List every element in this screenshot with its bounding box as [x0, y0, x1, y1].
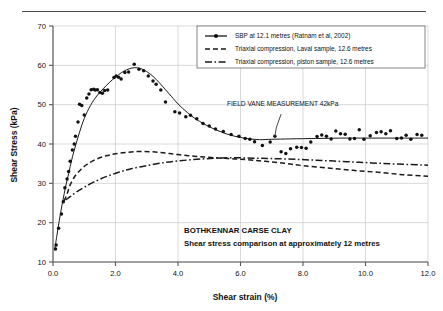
y-tick-labels: 10203040506070: [38, 22, 46, 267]
data-point: [74, 134, 78, 138]
x-tick-label: 10.0: [358, 269, 373, 278]
data-point: [164, 100, 168, 104]
data-point: [261, 144, 265, 148]
y-tick-label: 10: [38, 258, 46, 267]
chart-annotations: FIELD VANE MEASUREMENT 42kPa: [227, 100, 339, 136]
data-point: [80, 104, 84, 108]
data-point: [325, 134, 329, 138]
data-point: [142, 69, 146, 73]
data-point: [315, 135, 319, 139]
data-point: [353, 137, 357, 141]
data-point: [71, 148, 75, 152]
data-point: [415, 133, 419, 137]
data-point: [195, 117, 199, 121]
data-point: [54, 247, 58, 251]
data-point: [339, 132, 343, 136]
data-point: [395, 137, 399, 141]
annotation-leader-line: [275, 114, 281, 136]
data-point: [96, 88, 100, 92]
data-point: [208, 124, 212, 128]
data-point: [320, 133, 324, 137]
data-point: [229, 133, 233, 137]
data-point: [248, 138, 252, 142]
data-point: [76, 120, 80, 124]
data-point: [83, 113, 87, 117]
data-point: [85, 96, 89, 100]
data-point: [65, 177, 69, 181]
x-tick-label: 2.0: [110, 269, 121, 278]
legend-label: Triaxial compression, piston sample, 12.…: [235, 58, 374, 66]
data-point: [348, 137, 352, 141]
data-point: [358, 128, 362, 132]
data-point: [178, 111, 182, 115]
data-point: [404, 134, 408, 138]
data-point: [237, 134, 241, 138]
data-point: [253, 140, 257, 144]
data-point: [400, 136, 404, 140]
data-point: [362, 138, 366, 142]
data-point: [189, 114, 193, 118]
data-point: [268, 140, 272, 144]
series-line: [66, 158, 429, 200]
data-point: [409, 138, 413, 142]
data-point: [279, 150, 283, 154]
data-point: [184, 115, 188, 119]
data-point: [300, 146, 304, 150]
chart-legend: SBP at 12.1 metres (Ratnam et al, 2002)T…: [197, 26, 425, 68]
data-point: [62, 200, 65, 204]
data-point: [222, 130, 226, 134]
y-tick-label: 50: [38, 100, 46, 109]
x-tick-label: 6.0: [235, 269, 246, 278]
data-point: [119, 77, 123, 81]
x-tick-labels: 0.02.04.06.08.010.012.0: [48, 269, 436, 278]
data-point: [103, 89, 107, 93]
data-point: [106, 88, 110, 92]
y-tick-label: 40: [38, 140, 46, 149]
data-point: [334, 129, 338, 133]
data-point: [420, 134, 424, 138]
chart-page: 0.02.04.06.08.010.012.0 10203040506070 F…: [0, 0, 443, 311]
data-point: [379, 130, 383, 134]
series-line: [64, 151, 428, 201]
data-point: [127, 70, 131, 74]
data-point: [154, 82, 158, 86]
legend-label: Triaxial compression, Laval sample, 12.6…: [235, 45, 372, 53]
data-point: [243, 137, 247, 141]
data-point: [101, 92, 105, 96]
data-point: [384, 132, 388, 136]
shear-stress-chart: 0.02.04.06.08.010.012.0 10203040506070 F…: [0, 0, 443, 311]
data-point: [60, 212, 64, 216]
data-point: [54, 243, 58, 247]
y-tick-label: 20: [38, 218, 46, 227]
y-tick-label: 60: [38, 61, 46, 70]
data-point: [68, 160, 72, 164]
data-point: [343, 132, 347, 136]
chart-subtitle: Shear stress comparison at approximately…: [184, 239, 381, 248]
data-point: [304, 147, 308, 151]
data-point: [63, 186, 67, 190]
data-point: [151, 79, 155, 83]
x-axis-title: Shear strain (%): [213, 292, 278, 302]
data-point: [67, 170, 71, 174]
chart-title: BOTHKENNAR CARSE CLAY: [184, 226, 292, 235]
data-point: [309, 140, 313, 144]
data-point: [289, 147, 293, 151]
data-point: [329, 137, 333, 141]
data-point: [147, 74, 151, 78]
data-point: [173, 110, 177, 114]
data-point: [295, 145, 299, 149]
x-tick-label: 12.0: [421, 269, 436, 278]
data-point: [123, 71, 127, 75]
data-point: [87, 92, 91, 96]
x-tick-label: 4.0: [173, 269, 184, 278]
data-point: [284, 152, 288, 156]
x-tick-label: 8.0: [298, 269, 309, 278]
data-point: [201, 122, 205, 126]
annotation-label: FIELD VANE MEASUREMENT 42kPa: [227, 100, 339, 107]
data-point: [375, 131, 379, 135]
data-point: [73, 142, 77, 146]
data-point: [368, 134, 372, 138]
y-tick-label: 30: [38, 179, 46, 188]
data-point: [159, 88, 163, 92]
data-point: [137, 68, 141, 72]
